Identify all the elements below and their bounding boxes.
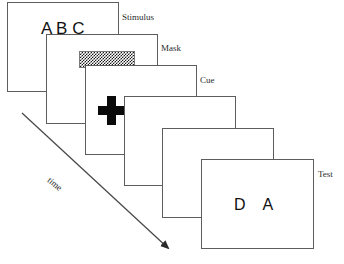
- plus-cross-icon: [98, 96, 125, 125]
- label-mask: Mask: [161, 43, 181, 53]
- label-cue: Cue: [200, 75, 215, 85]
- frame-test: D A: [201, 159, 314, 249]
- label-test: Test: [318, 169, 333, 179]
- trial-sequence-diagram: A B C D A Stimulus Mask Cue Test time: [0, 0, 344, 264]
- label-stimulus: Stimulus: [122, 12, 154, 22]
- test-letters: D A: [234, 197, 273, 213]
- cross-vertical-bar: [107, 96, 116, 125]
- time-axis-label: time: [46, 175, 65, 193]
